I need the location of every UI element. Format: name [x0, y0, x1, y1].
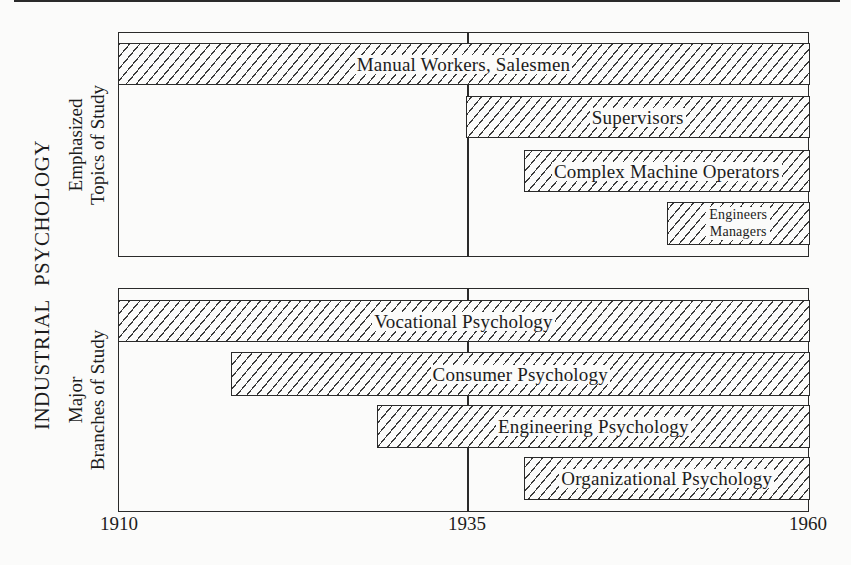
- bar-label: Manual Workers, Salesmen: [355, 55, 572, 74]
- x-tick-1935: 1935: [448, 514, 486, 533]
- bar-vocational-psychology: Vocational Psychology: [118, 300, 810, 342]
- bar-label: Vocational Psychology: [372, 312, 555, 331]
- bottom-panel-label-line2: Branches of Study: [87, 330, 109, 470]
- top-panel-label: Emphasized Topics of Study: [65, 85, 109, 205]
- top-panel-label-line2: Topics of Study: [87, 85, 109, 205]
- x-tick-1960: 1960: [789, 514, 827, 533]
- bar-engineers-managers: Engineers Managers: [667, 202, 810, 245]
- x-tick-1910: 1910: [100, 514, 138, 533]
- bar-label: Organizational Psychology: [559, 469, 774, 488]
- bar-engineering-psychology: Engineering Psychology: [377, 405, 810, 448]
- emphasized-topics-panel: Manual Workers, Salesmen Supervisors Com…: [118, 32, 809, 257]
- bar-label: Complex Machine Operators: [552, 162, 782, 181]
- major-branches-panel: Vocational Psychology Consumer Psycholog…: [118, 288, 809, 512]
- bar-label: Consumer Psychology: [431, 365, 610, 384]
- bar-complex-machine-operators: Complex Machine Operators: [524, 150, 810, 192]
- bar-consumer-psychology: Consumer Psychology: [231, 352, 810, 396]
- bottom-panel-label-line1: Major: [65, 330, 87, 470]
- bar-label: Supervisors: [590, 108, 686, 127]
- top-rule: [14, 0, 840, 2]
- bar-label: Engineering Psychology: [496, 417, 691, 436]
- bar-manual-workers-salesmen: Manual Workers, Salesmen: [118, 43, 810, 85]
- bar-organizational-psychology: Organizational Psychology: [524, 457, 810, 500]
- bar-supervisors: Supervisors: [466, 96, 810, 138]
- top-panel-label-line1: Emphasized: [65, 85, 87, 205]
- y-axis-main-label: INDUSTRIAL PSYCHOLOGY: [30, 140, 54, 430]
- bottom-panel-label: Major Branches of Study: [65, 330, 109, 470]
- bar-label: Engineers Managers: [706, 207, 770, 239]
